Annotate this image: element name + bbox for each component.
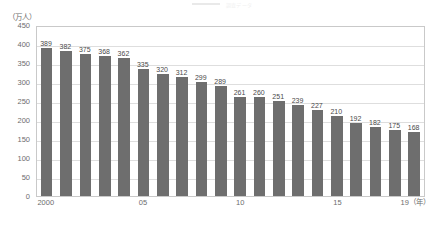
bar-slot: 389	[37, 27, 56, 196]
bar	[234, 97, 246, 196]
bar-value-label: 168	[399, 124, 429, 131]
bar	[389, 130, 401, 197]
chart-header: 調査データ	[0, 0, 444, 8]
plot-area: 3893823753683623353203122992892612602512…	[36, 26, 425, 197]
bar-series: 3893823753683623353203122992892612602512…	[37, 27, 424, 196]
legend-swatch-icon	[192, 3, 220, 5]
bar-slot: 251	[269, 27, 288, 196]
bar	[176, 77, 188, 196]
y-axis-tick-label: 350	[17, 60, 30, 68]
chart-title: 調査データ	[226, 1, 253, 8]
bar	[370, 127, 382, 196]
bar-slot: 210	[327, 27, 346, 196]
y-axis-tick-label: 250	[17, 98, 30, 106]
bar	[312, 110, 324, 196]
bar-slot: 299	[192, 27, 211, 196]
y-axis-tick-label: 200	[17, 117, 30, 125]
bar-slot: 239	[288, 27, 307, 196]
y-axis-tick-label: 300	[17, 79, 30, 87]
y-axis-tick-label: 450	[17, 22, 30, 30]
bar	[273, 101, 285, 196]
x-axis-tick-label: 2000	[37, 199, 54, 207]
bar-slot: 192	[347, 27, 366, 196]
bar-slot: 320	[153, 27, 172, 196]
bar	[60, 51, 72, 196]
x-axis: 200005101519（年）	[36, 199, 425, 213]
x-axis-tick-label: 05	[139, 199, 147, 207]
bar-slot: 261	[230, 27, 249, 196]
bar-slot: 362	[114, 27, 133, 196]
bar-slot: 175	[385, 27, 404, 196]
y-axis-tick-label: 150	[17, 136, 30, 144]
bar-slot: 312	[172, 27, 191, 196]
bar	[41, 48, 53, 196]
y-axis-tick-label: 400	[17, 41, 30, 49]
y-axis-tick-label: 50	[22, 174, 30, 182]
bar	[157, 74, 169, 196]
bar-slot: 335	[134, 27, 153, 196]
bar	[138, 69, 150, 196]
bar	[254, 97, 266, 196]
bar	[215, 86, 227, 196]
y-axis-tick-label: 100	[17, 155, 30, 163]
bar-slot: 182	[366, 27, 385, 196]
bar	[292, 105, 304, 196]
y-axis-tick-label: 0	[26, 193, 30, 201]
bar	[118, 58, 130, 196]
x-axis-tick-label: 19（年）	[401, 199, 430, 207]
bar-slot: 168	[405, 27, 424, 196]
bar	[99, 56, 111, 196]
bar	[80, 54, 92, 197]
bar	[408, 132, 420, 196]
x-axis-tick-label: 10	[236, 199, 244, 207]
bar	[350, 123, 362, 196]
x-axis-tick-label: 15	[333, 199, 341, 207]
bar-slot: 260	[250, 27, 269, 196]
bar-slot: 289	[211, 27, 230, 196]
bar	[331, 116, 343, 196]
y-axis: 450400350300250200150100500	[0, 26, 33, 197]
bar	[196, 82, 208, 196]
